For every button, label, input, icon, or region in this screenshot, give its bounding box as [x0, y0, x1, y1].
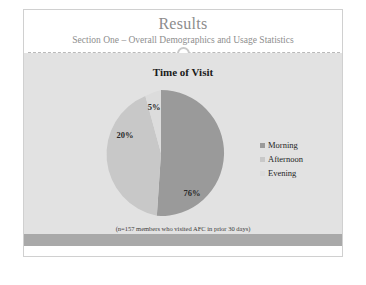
page-title: Results [24, 10, 342, 33]
legend-item-morning[interactable]: Morning [260, 139, 338, 151]
pie-label-morning: 76% [184, 188, 201, 198]
legend-swatch-afternoon [260, 157, 265, 162]
pie-label-afternoon: 20% [117, 130, 134, 140]
slide-footer-bar [24, 234, 342, 246]
legend-label-morning: Morning [268, 140, 298, 150]
slide-header: Results Section One – Overall Demographi… [24, 10, 342, 52]
pie-chart-svg: 76% 20% 5% [96, 88, 226, 218]
legend-item-evening[interactable]: Evening [260, 167, 338, 179]
page-subtitle: Section One – Overall Demographics and U… [24, 33, 342, 46]
legend-swatch-morning [260, 143, 265, 148]
pie-label-evening: 5% [148, 102, 161, 112]
legend-label-evening: Evening [268, 168, 296, 178]
chart-legend: Morning Afternoon Evening [260, 139, 338, 181]
legend-swatch-evening [260, 171, 265, 176]
legend-item-afternoon[interactable]: Afternoon [260, 153, 338, 165]
chart-footnote: (n=157 members who visited AFC in prior … [24, 225, 342, 232]
pie-chart: 76% 20% 5% [96, 88, 226, 218]
slide-body: Time of Visit 76% 20% 5% Morning Af [24, 53, 342, 246]
slide: Results Section One – Overall Demographi… [23, 9, 343, 257]
chart-title: Time of Visit [24, 66, 342, 78]
legend-label-afternoon: Afternoon [268, 154, 303, 164]
